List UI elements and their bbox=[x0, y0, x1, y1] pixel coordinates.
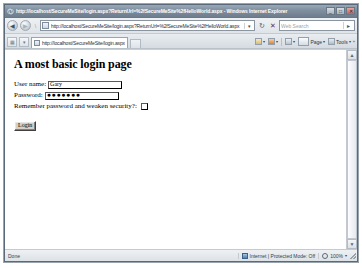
address-bar[interactable]: http://localhost/SecureMeSite/login.aspx… bbox=[40, 20, 255, 31]
ie-logo-icon bbox=[7, 8, 14, 15]
search-input[interactable]: Web Search bbox=[281, 23, 343, 29]
gear-icon bbox=[328, 38, 335, 45]
tools-menu-label: Tools bbox=[336, 39, 348, 45]
resize-grip[interactable] bbox=[349, 252, 356, 259]
search-go-icon[interactable]: ▸ bbox=[343, 22, 353, 29]
navigation-toolbar: ◀ ▶ \ http://localhost/SecureMeSite/logi… bbox=[5, 18, 357, 34]
password-label: Password: bbox=[14, 91, 43, 100]
tab-title: http://localhost/SecureMeSite/login.aspx bbox=[42, 40, 125, 46]
toolbar-overflow-icon[interactable]: » bbox=[353, 39, 355, 44]
nav-separator: \ bbox=[33, 23, 38, 29]
scrollbar-thumb[interactable] bbox=[347, 60, 357, 239]
username-row: User name: Gary bbox=[14, 80, 346, 89]
vertical-scrollbar[interactable]: ▲ ▼ bbox=[346, 50, 357, 249]
feeds-caret-icon[interactable]: ▾ bbox=[276, 39, 278, 44]
remember-password-label: Remember password and weaken security?: bbox=[14, 102, 137, 111]
page-title: A most basic login page bbox=[14, 57, 346, 71]
zoom-level-label: 100% bbox=[330, 253, 343, 259]
close-button[interactable]: ✕ bbox=[346, 7, 355, 15]
forward-button[interactable]: ▶ bbox=[20, 20, 31, 31]
print-button[interactable]: ▾ bbox=[284, 38, 296, 45]
password-row: Password: ●●●●●●● bbox=[14, 91, 346, 100]
page-menu-label: Page bbox=[310, 39, 322, 45]
tools-caret-icon[interactable]: ▾ bbox=[349, 39, 351, 44]
minimize-button[interactable]: _ bbox=[326, 7, 335, 15]
window-title-bar: http://localhost/SecureMeSite/login.aspx… bbox=[5, 5, 357, 18]
stop-icon[interactable]: ✕ bbox=[268, 21, 277, 30]
login-button[interactable]: Login bbox=[14, 121, 36, 131]
window-controls: _ □ ✕ bbox=[326, 7, 356, 15]
password-input[interactable]: ●●●●●●● bbox=[45, 92, 119, 100]
address-input[interactable]: http://localhost/SecureMeSite/login.aspx… bbox=[51, 23, 244, 29]
page-viewport: A most basic login page User name: Gary … bbox=[5, 49, 357, 249]
browser-window: http://localhost/SecureMeSite/login.aspx… bbox=[4, 4, 358, 262]
scrollbar-track[interactable] bbox=[347, 60, 357, 239]
printer-icon bbox=[285, 38, 292, 45]
page-caret-icon[interactable]: ▾ bbox=[323, 39, 325, 44]
address-dropdown-icon[interactable]: ▾ bbox=[244, 23, 253, 29]
tools-menu-button[interactable]: Tools ▾ bbox=[327, 38, 352, 45]
search-box[interactable]: Web Search ▸ bbox=[279, 20, 355, 31]
username-input[interactable]: Gary bbox=[48, 81, 122, 89]
status-bar: Done Internet | Protected Mode: Off 100%… bbox=[5, 249, 357, 261]
home-button[interactable]: ▾ bbox=[254, 38, 266, 45]
page-menu-button[interactable]: Page ▾ bbox=[297, 37, 326, 46]
tab-favicon-icon bbox=[34, 40, 40, 46]
remember-password-checkbox[interactable] bbox=[141, 103, 148, 110]
page-favicon-icon bbox=[42, 22, 49, 29]
zoom-control[interactable]: 100% ▾ bbox=[318, 253, 349, 259]
web-page-content: A most basic login page User name: Gary … bbox=[5, 50, 346, 249]
zoom-icon bbox=[322, 253, 328, 259]
home-icon bbox=[255, 38, 262, 45]
username-label: User name: bbox=[14, 80, 46, 89]
tab-list-icon[interactable]: ▾ bbox=[19, 37, 29, 47]
maximize-button[interactable]: □ bbox=[336, 7, 345, 15]
rss-feed-icon bbox=[268, 38, 275, 45]
window-title: http://localhost/SecureMeSite/login.aspx… bbox=[16, 8, 326, 14]
screenshot-root: http://localhost/SecureMeSite/login.aspx… bbox=[0, 0, 362, 268]
browser-tab[interactable]: http://localhost/SecureMeSite/login.aspx bbox=[31, 37, 128, 48]
refresh-icon[interactable]: ↻ bbox=[257, 21, 266, 30]
command-divider bbox=[281, 38, 282, 46]
tab-bar: ▦ ▾ http://localhost/SecureMeSite/login.… bbox=[5, 34, 357, 49]
print-caret-icon[interactable]: ▾ bbox=[293, 39, 295, 44]
remember-row: Remember password and weaken security?: bbox=[14, 102, 346, 111]
quick-tabs-icon[interactable]: ▦ bbox=[7, 37, 17, 47]
page-icon bbox=[298, 37, 309, 46]
feeds-button[interactable]: ▾ bbox=[267, 38, 279, 45]
internet-zone-icon bbox=[242, 253, 248, 259]
scroll-up-button[interactable]: ▲ bbox=[347, 50, 357, 60]
zoom-caret-icon[interactable]: ▾ bbox=[345, 253, 347, 258]
back-button[interactable]: ◀ bbox=[7, 20, 18, 31]
scroll-down-button[interactable]: ▼ bbox=[347, 239, 357, 249]
security-zone-indicator[interactable]: Internet | Protected Mode: Off bbox=[238, 253, 319, 259]
status-text: Done bbox=[6, 253, 20, 259]
new-tab-button[interactable] bbox=[130, 39, 141, 48]
home-caret-icon[interactable]: ▾ bbox=[263, 39, 265, 44]
security-zone-label: Internet | Protected Mode: Off bbox=[250, 253, 316, 259]
command-bar: ▾ ▾ ▾ Page ▾ Tools bbox=[254, 37, 355, 46]
